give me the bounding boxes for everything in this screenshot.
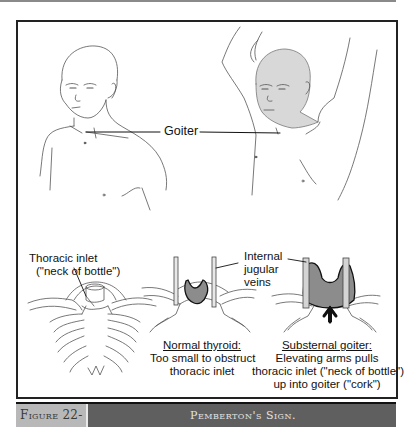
internal-label: Internal bbox=[244, 250, 282, 263]
figure-caption-bar: Figure 22-3 Pemberton's Sign. bbox=[16, 402, 396, 427]
thoracic-inlet-label: Thoracic inlet bbox=[29, 252, 97, 265]
rib-cage-illustration bbox=[28, 268, 156, 375]
substernal-goiter-line2: thoracic inlet ("neck of bottle") bbox=[252, 365, 402, 378]
person-arms-raised-illustration bbox=[222, 27, 377, 200]
veins-label: veins bbox=[244, 276, 271, 289]
normal-thyroid-line1: Too small to obstruct bbox=[150, 352, 254, 365]
substernal-goiter-line3: up into goiter ("cork") bbox=[252, 378, 402, 391]
jugular-label: jugular bbox=[244, 263, 279, 276]
figure-number: Figure 22-3 bbox=[16, 404, 88, 427]
normal-thyroid-line2: thoracic inlet bbox=[150, 365, 254, 378]
substernal-goiter-illustration bbox=[272, 258, 380, 332]
goiter-label: Goiter bbox=[164, 125, 198, 138]
substernal-goiter-caption: Substernal goiter: Elevating arms pulls … bbox=[252, 339, 402, 391]
person-arms-down-illustration bbox=[40, 46, 167, 210]
normal-thyroid-heading: Normal thyroid: bbox=[150, 339, 254, 352]
substernal-goiter-heading: Substernal goiter: bbox=[252, 339, 402, 352]
normal-thyroid-caption: Normal thyroid: Too small to obstruct th… bbox=[150, 339, 254, 378]
figure-title: Pemberton's Sign. bbox=[90, 404, 396, 427]
normal-thyroid-illustration bbox=[142, 257, 256, 332]
neck-of-bottle-label: ("neck of bottle") bbox=[36, 265, 120, 278]
substernal-goiter-line1: Elevating arms pulls bbox=[252, 352, 402, 365]
